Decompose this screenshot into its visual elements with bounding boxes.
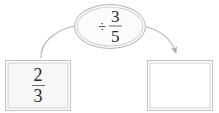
input-value-box[interactable]: 2 3 (5, 60, 71, 111)
operator-expression: ÷ 3 5 (98, 7, 122, 45)
connector-operator-to-output (146, 27, 176, 53)
divide-icon: ÷ (98, 20, 106, 34)
input-fraction: 2 3 (32, 66, 45, 106)
input-fraction-numerator: 2 (32, 66, 45, 84)
operator-fraction: 3 5 (109, 7, 122, 45)
operator-fraction-numerator: 3 (109, 7, 122, 24)
answer-value-box[interactable] (147, 60, 213, 111)
connector-input-to-operator (41, 26, 74, 58)
operator-fraction-denominator: 5 (109, 28, 122, 45)
input-fraction-denominator: 3 (32, 87, 45, 105)
answer-value-text (180, 85, 181, 86)
operator-bubble: ÷ 3 5 (74, 4, 146, 49)
fraction-division-diagram: ÷ 3 5 2 3 (0, 0, 219, 113)
